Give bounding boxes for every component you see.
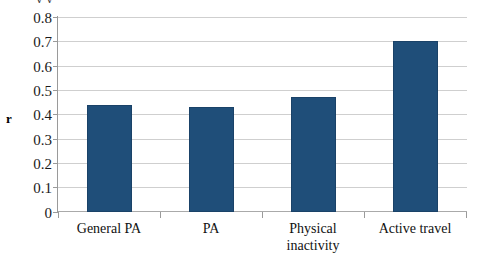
bar-general-pa[interactable]: [87, 105, 132, 212]
y-tick-label-0.5: 0.5: [6, 84, 52, 99]
y-tick-label-0.6: 0.6: [6, 60, 52, 75]
y-tick-label-0.8: 0.8: [6, 11, 52, 26]
x-axis-ticks: [58, 212, 467, 219]
x-axis-labels: General PA PA Physical inactivity Active…: [58, 220, 467, 264]
cropped-chart-title: y y: [36, 0, 366, 3]
y-tick-label-0.3: 0.3: [6, 133, 52, 148]
bar-chart: y y 0.8 0.7 0.6 0.5 0.4 0.3 0.2 0.1 0 r: [0, 0, 484, 266]
y-tick-label-0: 0: [6, 206, 52, 221]
y-axis-title: r: [6, 112, 12, 125]
x-label-line: Physical: [262, 220, 364, 237]
y-tick-label-0.2: 0.2: [6, 157, 52, 172]
plot-area: [58, 17, 467, 212]
y-tick-label-0.4: 0.4: [6, 108, 52, 123]
x-tick-label-physical-inactivity: Physical inactivity: [262, 220, 364, 254]
bar-physical-inactivity[interactable]: [291, 97, 336, 212]
y-axis-labels: 0.8 0.7 0.6 0.5 0.4 0.3 0.2 0.1 0: [0, 0, 52, 266]
bar-active-travel[interactable]: [393, 41, 438, 212]
bar-pa[interactable]: [189, 107, 234, 212]
x-label-line: General PA: [58, 220, 160, 237]
x-label-line: PA: [160, 220, 262, 237]
x-tick-label-general-pa: General PA: [58, 220, 160, 237]
x-tick-label-pa: PA: [160, 220, 262, 237]
bars-layer: [58, 17, 467, 212]
x-label-line: inactivity: [262, 237, 364, 254]
y-tick-label-0.1: 0.1: [6, 181, 52, 196]
x-label-line: Active travel: [364, 220, 466, 237]
x-tick-label-active-travel: Active travel: [364, 220, 466, 237]
y-tick-label-0.7: 0.7: [6, 35, 52, 50]
